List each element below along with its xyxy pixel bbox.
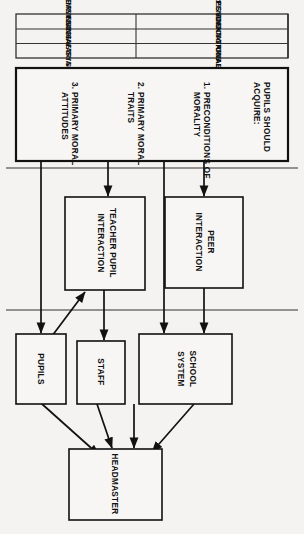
aims-item-3-line2: ATTITUDES bbox=[60, 92, 69, 140]
aims-item-3-line1: 3. PRIMARY MORAL bbox=[70, 82, 79, 166]
aims-item-1-line2: MORALITY bbox=[192, 92, 201, 137]
school-system-line1: SCHOOL bbox=[188, 351, 197, 388]
staff-label: STAFF bbox=[96, 358, 105, 385]
aims-box[interactable] bbox=[16, 68, 288, 161]
connector-pupils-teacherpupil bbox=[52, 292, 85, 336]
aims-heading-line1: PUPILS SHOULD bbox=[262, 82, 271, 152]
node-school-system[interactable] bbox=[139, 334, 232, 404]
diagram-canvas: MORES AND NORMS DEPENDENT VARIABLES EDUC… bbox=[0, 0, 304, 534]
connector-pupils-headmaster bbox=[42, 404, 99, 455]
peer-interaction-line2: INTERACTION bbox=[194, 212, 203, 271]
node-teacher-pupil-interaction[interactable] bbox=[65, 197, 145, 290]
school-system-line2: SYSTEM bbox=[176, 351, 185, 386]
teacher-pupil-line2: INTERACTION bbox=[96, 213, 105, 272]
aims-heading-line2: ACQUIRE: bbox=[252, 82, 261, 125]
connector-staff-headmaster bbox=[97, 404, 112, 448]
aims-item-2-line1: 2. PRIMARY MORAL bbox=[136, 82, 145, 166]
connector-school-headmaster bbox=[152, 404, 194, 452]
aims-item-2-line2: TRAITS bbox=[126, 92, 135, 124]
aims-item-1-line1: 1. PRECONDITIONS OF bbox=[202, 82, 211, 179]
diagram-svg: MORES AND NORMS DEPENDENT VARIABLES EDUC… bbox=[0, 0, 304, 534]
pupils-label: PUPILS bbox=[36, 353, 45, 385]
peer-interaction-line1: PEER bbox=[206, 230, 215, 254]
teacher-pupil-line1: TEACHER PUPIL bbox=[108, 208, 117, 278]
diagram-page: MORES AND NORMS DEPENDENT VARIABLES EDUC… bbox=[0, 0, 304, 534]
label-column-frame bbox=[16, 14, 288, 58]
node-peer-interaction[interactable] bbox=[165, 197, 243, 288]
headmaster-label: HEADMASTER bbox=[110, 454, 119, 515]
